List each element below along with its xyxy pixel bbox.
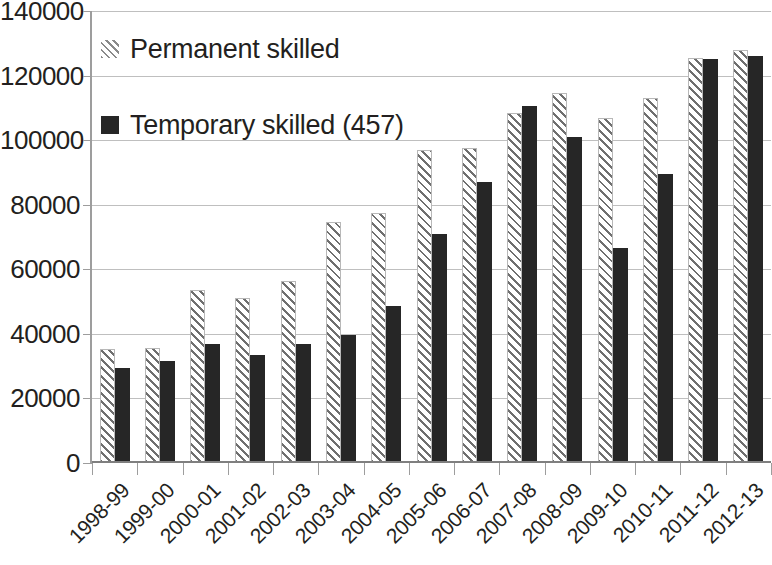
bar-permanent-skilled — [326, 222, 341, 463]
legend-item-temporary-skilled: Temporary skilled (457) — [101, 108, 501, 142]
bar-temporary-skilled — [522, 106, 537, 463]
bar-permanent-skilled — [462, 148, 477, 463]
legend-item-permanent-skilled: Permanent skilled — [101, 32, 501, 66]
bar-temporary-skilled — [477, 182, 492, 463]
bar-temporary-skilled — [613, 248, 628, 463]
y-axis-tick-label: 40000 — [0, 321, 80, 347]
bar-temporary-skilled — [703, 59, 718, 463]
y-axis-tick — [83, 269, 92, 270]
legend-label-permanent-skilled: Permanent skilled — [130, 36, 340, 63]
y-axis-tick — [83, 76, 92, 77]
bar-temporary-skilled — [250, 355, 265, 463]
bar-permanent-skilled — [417, 150, 432, 463]
gridline — [92, 11, 771, 12]
bar-permanent-skilled — [281, 281, 296, 463]
bar-permanent-skilled — [371, 213, 386, 463]
bar-permanent-skilled — [507, 113, 522, 463]
y-axis-labels: 140000120000100000800006000040000200000 — [0, 0, 80, 470]
y-axis-tick-label: 120000 — [0, 63, 80, 89]
solid-swatch-icon — [101, 116, 119, 134]
bar-permanent-skilled — [190, 290, 205, 463]
bar-temporary-skilled — [160, 361, 175, 463]
legend-label-temporary-skilled: Temporary skilled (457) — [130, 112, 404, 139]
y-axis-tick-label: 100000 — [0, 127, 80, 153]
bar-temporary-skilled — [432, 234, 447, 463]
bar-temporary-skilled — [386, 306, 401, 463]
y-axis-tick — [83, 398, 92, 399]
bar-temporary-skilled — [205, 344, 220, 463]
y-axis-tick — [83, 205, 92, 206]
hatch-swatch-icon — [101, 40, 119, 58]
bar-permanent-skilled — [145, 348, 160, 463]
bar-temporary-skilled — [658, 174, 673, 463]
y-axis-tick — [83, 140, 92, 141]
bar-permanent-skilled — [643, 98, 658, 463]
bar-permanent-skilled — [552, 93, 567, 463]
bar-temporary-skilled — [341, 335, 356, 463]
y-axis-tick-label: 60000 — [0, 256, 80, 282]
bar-permanent-skilled — [733, 50, 748, 463]
bar-temporary-skilled — [748, 56, 763, 463]
chart-legend: Permanent skilled Temporary skilled (457… — [101, 32, 501, 142]
x-axis-labels: 1998-991999-002000-012001-022002-032003-… — [90, 463, 769, 565]
bar-permanent-skilled — [688, 58, 703, 463]
y-axis-tick — [83, 11, 92, 12]
y-axis-tick — [83, 334, 92, 335]
y-axis-tick-label: 140000 — [0, 0, 80, 24]
bar-temporary-skilled — [296, 344, 311, 463]
bar-permanent-skilled — [100, 349, 115, 463]
bar-permanent-skilled — [235, 298, 250, 463]
y-axis-tick-label: 80000 — [0, 192, 80, 218]
y-axis-tick-label: 0 — [0, 450, 80, 476]
bar-temporary-skilled — [567, 137, 582, 463]
bar-permanent-skilled — [598, 118, 613, 463]
y-axis-tick-label: 20000 — [0, 385, 80, 411]
bar-temporary-skilled — [115, 368, 130, 463]
